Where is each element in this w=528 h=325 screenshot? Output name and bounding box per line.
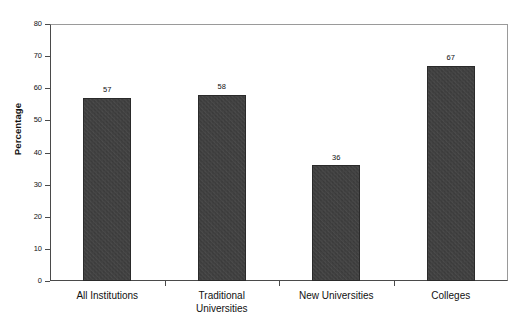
x-axis-category-label: All Institutions xyxy=(50,290,165,303)
bar xyxy=(83,98,131,281)
y-axis-title: Percentage xyxy=(12,84,23,174)
y-axis-tick-label: 70 xyxy=(16,52,42,60)
bar-chart: Percentage 01020304050607080 57583667 Al… xyxy=(0,0,528,325)
x-axis-category-labels: All InstitutionsTraditionalUniversitiesN… xyxy=(50,290,508,322)
bar xyxy=(312,165,360,281)
x-axis-category-label-line2: Universities xyxy=(165,303,280,316)
bar-value-label: 67 xyxy=(447,54,455,62)
x-axis-category-label-line1: Colleges xyxy=(431,290,470,301)
x-axis-separator-tick xyxy=(279,281,280,286)
bars-layer: 57583667 xyxy=(50,24,508,281)
bar-group: 58 xyxy=(165,24,280,281)
x-axis-category-label-line1: All Institutions xyxy=(76,290,138,301)
bar-group: 36 xyxy=(279,24,394,281)
bar-value-label: 57 xyxy=(103,86,111,94)
bar xyxy=(198,95,246,281)
y-axis-tick-label: 40 xyxy=(16,149,42,157)
y-axis-tick-label: 50 xyxy=(16,116,42,124)
y-axis-tick-label: 0 xyxy=(16,277,42,285)
x-axis-category-label-line1: New Universities xyxy=(299,290,373,301)
y-axis-tick xyxy=(45,281,50,282)
bar-group: 67 xyxy=(394,24,509,281)
bar-group: 57 xyxy=(50,24,165,281)
x-axis-category-label: TraditionalUniversities xyxy=(165,290,280,315)
y-axis-tick-label: 10 xyxy=(16,245,42,253)
bar-value-label: 58 xyxy=(218,83,226,91)
y-axis-tick-label: 60 xyxy=(16,84,42,92)
x-axis-category-label: Colleges xyxy=(394,290,509,303)
y-axis-tick-label: 30 xyxy=(16,181,42,189)
x-axis-category-label-line1: Traditional xyxy=(199,290,245,301)
x-axis-category-label: New Universities xyxy=(279,290,394,303)
x-axis-separator-tick xyxy=(394,281,395,286)
y-axis-tick-label: 80 xyxy=(16,20,42,28)
bar-value-label: 36 xyxy=(332,154,340,162)
x-axis-separator-tick xyxy=(165,281,166,286)
y-axis-tick-label: 20 xyxy=(16,213,42,221)
bar xyxy=(427,66,475,281)
